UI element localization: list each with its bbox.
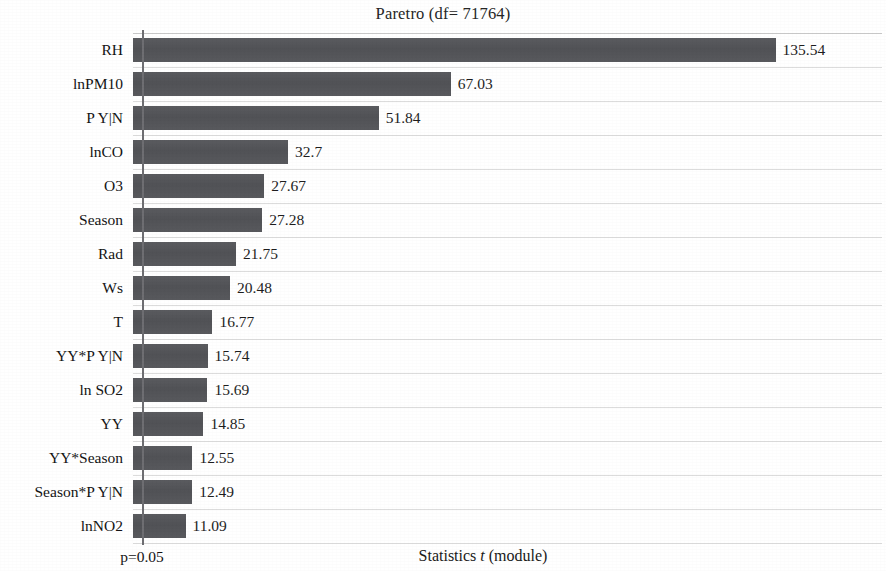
bar-value-label: 16.77 <box>219 312 254 331</box>
bar[interactable] <box>133 514 186 538</box>
category-label: RH <box>0 33 128 67</box>
bar[interactable] <box>133 38 776 62</box>
significance-reference-line <box>142 30 144 545</box>
bar-value-label: 32.7 <box>295 142 322 161</box>
bar-row[interactable]: 15.69 <box>133 373 882 407</box>
bar-row[interactable]: 21.75 <box>133 237 882 271</box>
bar[interactable] <box>133 310 212 334</box>
bar-row[interactable]: 27.28 <box>133 203 882 237</box>
category-label: O3 <box>0 169 128 203</box>
x-axis-title-tail: (module) <box>489 547 548 564</box>
category-label: Season*P Y|N <box>0 475 128 509</box>
category-label: Season <box>0 203 128 237</box>
bar-row[interactable]: 16.77 <box>133 305 882 339</box>
bar-value-label: 135.54 <box>783 40 826 59</box>
bar-row[interactable]: 27.67 <box>133 169 882 203</box>
bar-row[interactable]: 14.85 <box>133 407 882 441</box>
bar-row[interactable]: 11.09 <box>133 509 882 543</box>
gridline <box>133 543 882 544</box>
bar-value-label: 20.48 <box>237 278 272 297</box>
bar-row[interactable]: 32.7 <box>133 135 882 169</box>
bar-value-label: 27.67 <box>271 176 306 195</box>
bar-value-label: 15.69 <box>214 380 249 399</box>
bar[interactable] <box>133 378 207 402</box>
bar-value-label: 14.85 <box>210 414 245 433</box>
bar[interactable] <box>133 276 230 300</box>
p-value-label: p=0.05 <box>82 548 202 566</box>
bar[interactable] <box>133 344 208 368</box>
bar-row[interactable]: 12.49 <box>133 475 882 509</box>
x-axis-title-italic: t <box>480 547 484 564</box>
bar[interactable] <box>133 140 288 164</box>
category-label: P Y|N <box>0 101 128 135</box>
category-label: ln SO2 <box>0 373 128 407</box>
bar-row[interactable]: 15.74 <box>133 339 882 373</box>
category-label: lnNO2 <box>0 509 128 543</box>
bar-row[interactable]: 135.54 <box>133 33 882 67</box>
category-label: YY*P Y|N <box>0 339 128 373</box>
bar-value-label: 67.03 <box>458 74 493 93</box>
bar-value-label: 15.74 <box>215 346 250 365</box>
category-label: Rad <box>0 237 128 271</box>
bar[interactable] <box>133 106 379 130</box>
category-label: lnCO <box>0 135 128 169</box>
plot-area: 135.5467.0351.8432.727.6727.2821.7520.48… <box>133 33 882 545</box>
bar[interactable] <box>133 242 236 266</box>
bar-value-label: 27.28 <box>269 210 304 229</box>
bar-row[interactable]: 20.48 <box>133 271 882 305</box>
pareto-chart: Paretro (df= 71764) RHlnPM10P Y|NlnCOO3S… <box>0 0 886 571</box>
bar-row[interactable]: 12.55 <box>133 441 882 475</box>
bar-value-label: 11.09 <box>193 516 227 535</box>
category-label: YY*Season <box>0 441 128 475</box>
bar-value-label: 12.49 <box>199 482 234 501</box>
category-axis: RHlnPM10P Y|NlnCOO3SeasonRadWsTYY*P Y|Nl… <box>0 33 128 545</box>
category-label: YY <box>0 407 128 441</box>
bar[interactable] <box>133 174 264 198</box>
bar-value-label: 21.75 <box>243 244 278 263</box>
category-label: lnPM10 <box>0 67 128 101</box>
x-axis-title: Statistics t (module) <box>333 547 633 565</box>
bar-row[interactable]: 67.03 <box>133 67 882 101</box>
bar-value-label: 51.84 <box>386 108 421 127</box>
bar[interactable] <box>133 208 262 232</box>
bar[interactable] <box>133 72 451 96</box>
bar-value-label: 12.55 <box>199 448 234 467</box>
category-label: T <box>0 305 128 339</box>
category-label: Ws <box>0 271 128 305</box>
bar-row[interactable]: 51.84 <box>133 101 882 135</box>
chart-title: Paretro (df= 71764) <box>0 4 886 24</box>
x-axis-title-plain: Statistics <box>419 547 477 564</box>
